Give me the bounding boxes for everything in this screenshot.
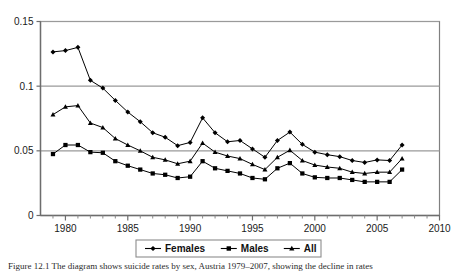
line-chart: 00.050.10.15 198019851990199520002005201… bbox=[0, 0, 455, 272]
legend-marker-square-icon bbox=[227, 246, 231, 250]
data-point-males-1979 bbox=[51, 152, 55, 156]
x-tick-label-4: 2000 bbox=[304, 223, 327, 234]
legend-label-females: Females bbox=[165, 243, 205, 254]
data-point-males-2002 bbox=[338, 176, 342, 180]
data-point-males-1989 bbox=[176, 176, 180, 180]
data-point-males-1999 bbox=[300, 171, 304, 175]
x-axis-tick-labels: 1980198519901995200020052010 bbox=[54, 223, 451, 234]
legend-label-all: All bbox=[304, 243, 317, 254]
data-point-males-1984 bbox=[113, 159, 117, 163]
data-point-males-1996 bbox=[263, 177, 267, 181]
data-point-males-1982 bbox=[88, 150, 92, 154]
data-point-males-1988 bbox=[163, 173, 167, 177]
data-point-males-1994 bbox=[238, 171, 242, 175]
data-point-males-2000 bbox=[313, 175, 317, 179]
y-tick-label-2: 0.1 bbox=[20, 81, 34, 92]
data-point-males-1997 bbox=[275, 166, 279, 170]
data-point-males-1998 bbox=[288, 161, 292, 165]
legend-label-males: Males bbox=[241, 243, 269, 254]
data-point-males-1993 bbox=[225, 169, 229, 173]
data-point-males-2006 bbox=[388, 180, 392, 184]
data-point-males-1990 bbox=[188, 175, 192, 179]
plot-border bbox=[41, 22, 440, 216]
data-point-males-2003 bbox=[350, 178, 354, 182]
y-tick-label-0: 0 bbox=[28, 210, 34, 221]
data-point-males-1985 bbox=[126, 164, 130, 168]
x-axis-ticks bbox=[53, 216, 440, 221]
data-point-males-2005 bbox=[375, 180, 379, 184]
data-point-males-2007 bbox=[400, 167, 404, 171]
y-tick-label-3: 0.15 bbox=[14, 16, 34, 27]
y-tick-label-1: 0.05 bbox=[14, 145, 34, 156]
plot-area-background bbox=[41, 22, 440, 216]
figure-container: 00.050.10.15 198019851990199520002005201… bbox=[0, 0, 455, 272]
data-point-males-1981 bbox=[76, 143, 80, 147]
figure-caption: Figure 12.1 The diagram shows suicide ra… bbox=[8, 261, 450, 272]
data-point-males-2004 bbox=[363, 180, 367, 184]
x-tick-label-6: 2010 bbox=[428, 223, 451, 234]
data-point-males-1980 bbox=[63, 143, 67, 147]
chart-legend: FemalesMalesAll bbox=[136, 240, 321, 257]
x-tick-label-2: 1990 bbox=[179, 223, 202, 234]
data-point-males-1992 bbox=[213, 166, 217, 170]
x-tick-label-1: 1985 bbox=[117, 223, 140, 234]
data-point-males-1995 bbox=[250, 176, 254, 180]
x-tick-label-5: 2005 bbox=[366, 223, 389, 234]
data-point-males-1987 bbox=[151, 171, 155, 175]
data-point-males-1986 bbox=[138, 167, 142, 171]
x-tick-label-0: 1980 bbox=[54, 223, 77, 234]
data-point-males-1983 bbox=[101, 151, 105, 155]
data-point-males-1991 bbox=[200, 159, 204, 163]
data-point-males-2001 bbox=[325, 176, 329, 180]
y-axis-tick-labels: 00.050.10.15 bbox=[14, 16, 34, 221]
x-tick-label-3: 1995 bbox=[241, 223, 264, 234]
